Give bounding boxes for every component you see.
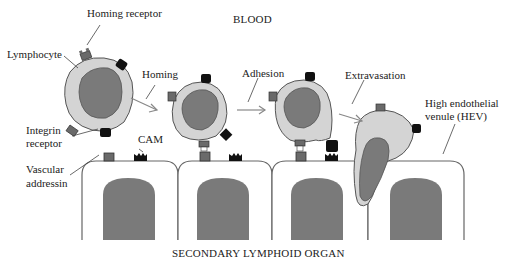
hev-label-line2: venule (HEV) bbox=[425, 110, 487, 123]
cam-3 bbox=[325, 153, 338, 161]
cam-1 bbox=[134, 153, 147, 161]
cam-label: CAM bbox=[138, 133, 163, 146]
step-label-extravasation: Extravasation bbox=[345, 69, 405, 82]
hev-label-line1: High endothelial bbox=[425, 97, 499, 110]
integrin-receptor-label-line2: receptor bbox=[26, 137, 62, 150]
vascular-addressin-1 bbox=[104, 153, 114, 161]
vascular-addressin-2 bbox=[200, 152, 210, 161]
lymphoid-organ-region-label: SECONDARY LYMPHOID ORGAN bbox=[172, 247, 345, 259]
lymphocyte-2 bbox=[168, 74, 232, 151]
homing-receptor-label: Homing receptor bbox=[87, 7, 162, 20]
vascular-addressin-label-line1: Vascular bbox=[26, 163, 64, 176]
integrin-receptor-label-line1: Integrin bbox=[26, 124, 61, 137]
step-label-adhesion: Adhesion bbox=[242, 67, 284, 80]
lymphocyte-homing-diagram bbox=[0, 0, 512, 262]
cam-2 bbox=[229, 153, 242, 161]
lymphocyte-label: Lymphocyte bbox=[7, 48, 62, 61]
lymphocyte-1 bbox=[65, 48, 133, 137]
lymphocyte-3 bbox=[269, 72, 338, 152]
vascular-addressin-3 bbox=[296, 152, 306, 161]
blood-region-label: BLOOD bbox=[233, 13, 272, 25]
vascular-addressin-label-line2: addressin bbox=[26, 177, 68, 190]
step-label-homing: Homing bbox=[142, 68, 178, 81]
